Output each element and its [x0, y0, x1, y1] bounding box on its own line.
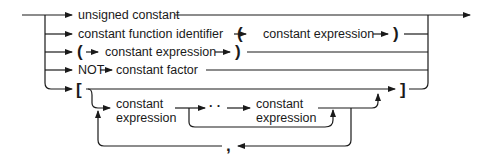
railroad-lines	[0, 0, 493, 161]
open-paren-symbol: (	[77, 43, 83, 60]
close-bracket-symbol: ]	[400, 81, 406, 98]
open-paren-symbol: (	[237, 25, 243, 42]
constant-factor-label: constant factor	[116, 64, 198, 77]
set-first-constant-expression: constant expression	[116, 97, 176, 125]
constant-expression-label: constant expression	[263, 28, 374, 41]
not-keyword: NOT	[78, 64, 104, 77]
range-operator: · ·	[209, 100, 221, 113]
constant-expression-label: constant expression	[105, 46, 216, 59]
constant-function-identifier-label: constant function identifier	[78, 28, 223, 41]
close-paren-symbol: )	[235, 43, 241, 60]
comma-separator: ,	[226, 137, 231, 154]
close-paren-symbol: )	[393, 25, 399, 42]
unsigned-constant-label: unsigned constant	[78, 9, 179, 22]
set-second-constant-expression: constant expression	[256, 97, 316, 125]
open-bracket-symbol: [	[76, 81, 82, 98]
